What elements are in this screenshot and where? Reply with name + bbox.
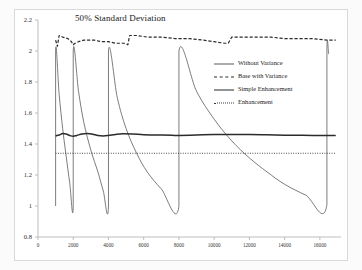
chart-figure: 50% Standard Deviation Without Variance …: [0, 0, 362, 270]
x-axis-tick-label: 4000: [95, 242, 121, 248]
x-axis-tick-label: 12000: [236, 242, 262, 248]
legend-swatch-solid-thin-icon: [214, 61, 234, 67]
x-axis-tick-label: 10000: [201, 242, 227, 248]
legend-swatch-solid-thick-icon: [214, 87, 234, 93]
y-axis-tick-label: 1.6: [16, 109, 32, 116]
x-axis-tick-label: 6000: [131, 242, 157, 248]
y-axis-tick-label: 1: [16, 202, 32, 209]
y-axis-tick-label: 2: [16, 47, 32, 54]
chart-title: 50% Standard Deviation: [75, 13, 166, 23]
legend-label: Enhancement: [238, 99, 273, 105]
legend-item-simple-enhancement[interactable]: Simple Enhancement: [214, 83, 292, 96]
y-axis-tick-label: 1.8: [16, 78, 32, 85]
x-axis-tick-label: 14000: [272, 242, 298, 248]
legend-swatch-dashed-icon: [214, 74, 234, 80]
legend-label: Without Variance: [238, 60, 283, 66]
x-axis-tick-label: 0: [25, 242, 51, 248]
y-axis-tick-label: 0.8: [16, 233, 32, 240]
x-axis-tick-label: 8000: [166, 242, 192, 248]
chart-legend: Without Variance Base with Variance Simp…: [214, 57, 292, 109]
series-line-base-with-variance: [56, 36, 336, 47]
legend-label: Simple Enhancement: [238, 86, 292, 92]
y-axis-tick-label: 1.2: [16, 171, 32, 178]
legend-item-without-variance[interactable]: Without Variance: [214, 57, 292, 70]
series-line-simple-enhancement: [56, 133, 336, 136]
y-axis-tick-label: 2.2: [16, 16, 32, 23]
legend-item-base-with-variance[interactable]: Base with Variance: [214, 70, 292, 83]
legend-label: Base with Variance: [238, 73, 287, 79]
legend-swatch-dotted-icon: [214, 100, 234, 106]
legend-item-enhancement[interactable]: Enhancement: [214, 96, 292, 109]
x-axis-tick-label: 2000: [60, 242, 86, 248]
axes-layer: [35, 20, 341, 240]
y-axis-tick-label: 1.4: [16, 140, 32, 147]
series-layer: [56, 36, 336, 215]
x-axis-tick-label: 16000: [307, 242, 333, 248]
chart-canvas: [0, 0, 362, 270]
